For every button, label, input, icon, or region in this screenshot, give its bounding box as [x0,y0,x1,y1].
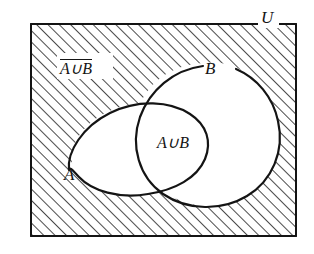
universe-label: U [261,9,273,26]
venn-diagram-canvas: U A B A∪B A∪B [0,0,314,254]
set-b-label: B [205,60,216,77]
complement-hatched-region [0,0,314,254]
complement-label: A∪B [60,59,92,77]
venn-diagram-graphic [0,0,314,254]
complement-label-text: A∪B [60,59,92,77]
union-label: A∪B [157,135,189,151]
set-a-label: A [64,166,75,183]
